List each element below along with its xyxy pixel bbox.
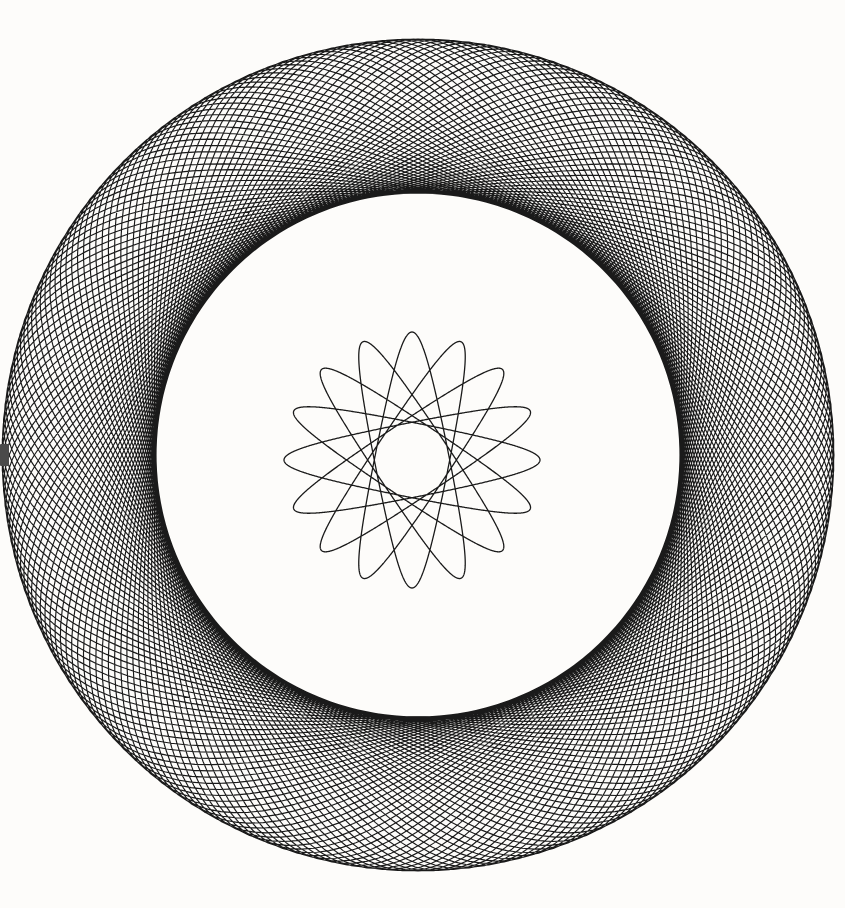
- outer-rosette: [2, 39, 834, 871]
- inner-rosette: [284, 332, 540, 588]
- left-edge-smudge: [0, 444, 9, 466]
- spirograph-drawing: [0, 0, 845, 908]
- artwork-canvas: [0, 0, 845, 908]
- curve-layer: [2, 39, 834, 871]
